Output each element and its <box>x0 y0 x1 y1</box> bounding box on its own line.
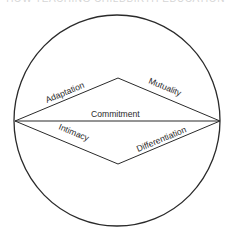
label-differentiation: Differentiation <box>135 124 188 154</box>
label-intimacy: Intimacy <box>57 122 91 144</box>
label-adaptation: Adaptation <box>44 80 86 105</box>
label-mutuality: Mutuality <box>147 76 183 99</box>
label-commitment: Commitment <box>91 109 140 119</box>
relationship-diagram: Adaptation Mutuality Commitment Intimacy… <box>0 0 231 239</box>
